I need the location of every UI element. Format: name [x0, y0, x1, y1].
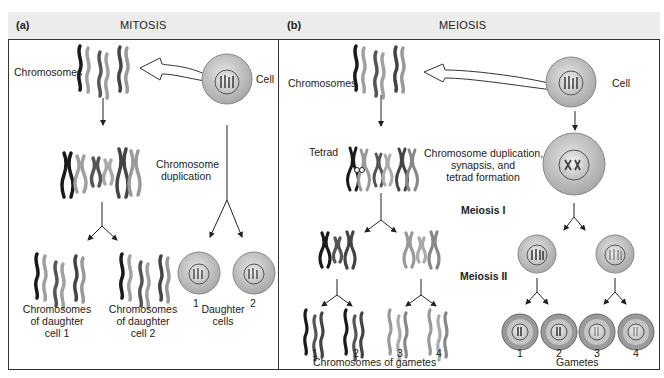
mitosis-chromosomes — [79, 46, 129, 98]
daughter-cell-2-icon — [233, 252, 275, 294]
meiosis-tetrad-cell-icon — [543, 133, 605, 195]
diagram-art — [0, 0, 664, 378]
meiosis-i-cell-2-icon — [596, 235, 634, 273]
mitosis-parent-cell-icon — [202, 54, 252, 104]
daughter-cells-label: Daughter cells — [198, 303, 248, 327]
meiosis-parent-cell-icon — [546, 57, 596, 107]
mitosis-duplicated-chromosomes — [62, 149, 140, 197]
daughter-2-chromosomes-label: Chromosomes of daughter cell 2 — [108, 303, 178, 339]
meiosis-duplication-label: Chromosome duplication, synapsis, and te… — [424, 147, 542, 183]
gametes-label: Gametes — [556, 356, 599, 368]
gamete-chrom-number-4: 4 — [436, 347, 442, 359]
meiosis-i-cell-1-icon — [518, 235, 556, 273]
gamete-1-icon — [502, 314, 538, 350]
gamete-4-icon — [618, 314, 654, 350]
meiosis-ii-label: Meiosis II — [460, 270, 507, 282]
gamete-2-icon — [541, 314, 577, 350]
daughter-cell-2-number: 2 — [250, 297, 256, 309]
daughter-cell-1-icon — [178, 252, 220, 294]
mitosis-chromosomes-label: Chromosomes — [14, 66, 82, 78]
gamete-chromosomes-label: Chromosomes of gametes — [313, 356, 436, 368]
mitosis-cell-label: Cell — [256, 73, 274, 85]
gamete-number-4: 4 — [633, 347, 639, 359]
tetrad-label: Tetrad — [309, 146, 338, 158]
mitosis-duplication-label: Chromosome duplication — [156, 158, 216, 182]
meiosis-i-label: Meiosis I — [461, 204, 505, 216]
meiosis-chromosomes-label: Chromosomes — [288, 77, 356, 89]
daughter-1-chromosomes-label: Chromosomes of daughter cell 1 — [22, 303, 92, 339]
gamete-number-1: 1 — [517, 347, 523, 359]
gamete-3-icon — [579, 314, 615, 350]
meiosis-cell-label: Cell — [612, 77, 630, 89]
